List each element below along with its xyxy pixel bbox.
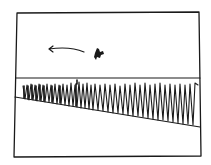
left-arrow-icon	[49, 46, 84, 52]
grass-row	[23, 82, 198, 125]
flying-creature-icon	[94, 48, 104, 60]
sketch-canvas	[0, 0, 211, 165]
frame-border	[14, 12, 201, 157]
sketch-svg	[0, 0, 211, 165]
